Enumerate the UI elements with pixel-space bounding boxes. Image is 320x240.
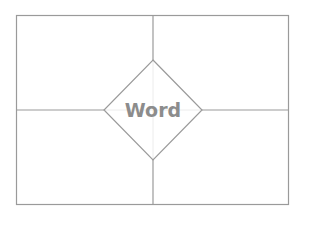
center-word: Word — [104, 97, 202, 123]
